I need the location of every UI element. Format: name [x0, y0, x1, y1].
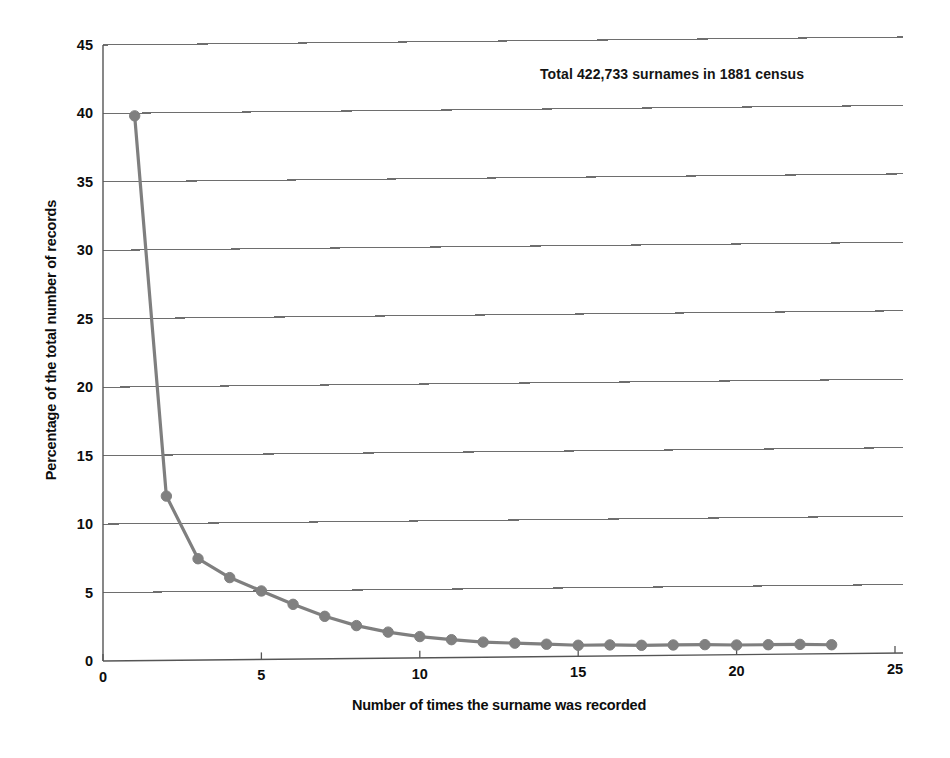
- y-tick-label: 30: [59, 243, 93, 258]
- x-tick-label: 10: [400, 667, 440, 682]
- x-tick-label: 25: [875, 662, 915, 677]
- x-tick-label: 5: [241, 668, 281, 683]
- y-tick-label: 25: [59, 312, 93, 327]
- x-tick-marks: [103, 646, 895, 661]
- y-tick-label: 20: [59, 380, 93, 395]
- x-tick-label: 15: [558, 665, 598, 680]
- y-tick-label: 5: [59, 586, 93, 601]
- y-tick-label: 0: [59, 654, 93, 669]
- x-tick-label: 20: [717, 664, 757, 679]
- plot-area: [0, 0, 950, 758]
- y-tick-label: 40: [59, 106, 93, 121]
- gridlines: [103, 37, 903, 593]
- y-tick-label: 45: [59, 38, 93, 53]
- axis-lines: [103, 45, 903, 661]
- y-tick-label: 35: [59, 175, 93, 190]
- y-tick-label: 15: [59, 449, 93, 464]
- x-tick-label: 0: [83, 670, 123, 685]
- y-tick-label: 10: [59, 517, 93, 532]
- chart-figure: Percentage of the total number of record…: [0, 0, 950, 758]
